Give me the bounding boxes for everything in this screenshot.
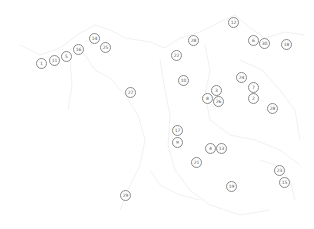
map-marker[interactable]: 23 [274,165,285,176]
map-marker[interactable]: 10 [178,75,189,86]
map-marker[interactable]: 28 [267,103,278,114]
map-marker[interactable]: 18 [281,39,292,50]
map-marker[interactable]: 5 [61,51,72,62]
map-marker[interactable]: 16 [73,44,84,55]
map-marker[interactable]: 1 [36,58,47,69]
map-marker[interactable]: 13 [216,143,227,154]
map-marker[interactable]: 12 [228,17,239,28]
map-marker[interactable]: 28 [188,35,199,46]
map-marker[interactable]: 11 [49,55,60,66]
map-marker[interactable]: 30 [259,38,270,49]
map-marker[interactable]: 27 [125,87,136,98]
map-marker[interactable]: 14 [89,33,100,44]
map-canvas[interactable]: 1115161425271228226301810382624722817941… [0,0,314,229]
map-marker[interactable]: 2 [248,93,259,104]
map-marker[interactable]: 8 [202,93,213,104]
map-marker[interactable]: 19 [226,181,237,192]
map-marker[interactable]: 9 [172,137,183,148]
map-outlines [0,0,314,229]
map-marker[interactable]: 26 [213,96,224,107]
map-marker[interactable]: 17 [172,125,183,136]
map-marker[interactable]: 24 [236,72,247,83]
map-marker[interactable]: 22 [171,50,182,61]
map-marker[interactable]: 21 [191,157,202,168]
map-marker[interactable]: 4 [205,143,216,154]
map-marker[interactable]: 6 [248,35,259,46]
map-marker[interactable]: 25 [100,42,111,53]
map-marker[interactable]: 15 [279,177,290,188]
map-marker[interactable]: 7 [248,82,259,93]
map-marker[interactable]: 3 [211,85,222,96]
map-marker[interactable]: 29 [120,190,131,201]
